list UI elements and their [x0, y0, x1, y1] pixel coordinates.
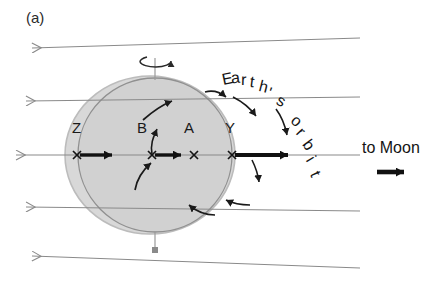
figure-panel: (a) Z B A Y to Moon Earth's orbit: [0, 0, 444, 282]
point-marker-y: [228, 151, 288, 159]
label-to-moon: to Moon: [362, 140, 420, 156]
label-point-z: Z: [72, 120, 81, 135]
label-point-b: B: [137, 120, 147, 135]
label-point-a: A: [184, 120, 194, 135]
earths-orbit-arrows: [233, 97, 287, 182]
label-point-y: Y: [225, 120, 235, 135]
panel-label: (a): [26, 10, 44, 25]
